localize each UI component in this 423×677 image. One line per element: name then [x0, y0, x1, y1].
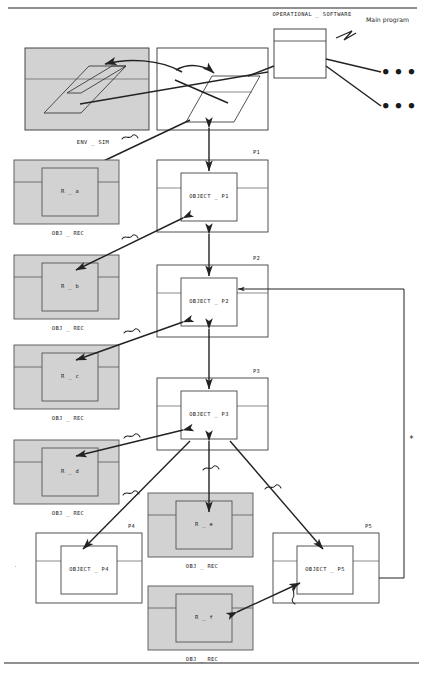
stray-dot-artifact: . [14, 563, 17, 568]
record-box-label-d: R _ d [61, 469, 79, 474]
record-box-label-c: R _ c [61, 374, 79, 379]
process-label-p2: P2 [253, 256, 260, 261]
obj-rec-caption-d: OBJ _ REC [52, 511, 84, 516]
record-box-label-e: R _ e [195, 522, 213, 527]
object-box-label-p2: OBJECT _ P2 [189, 299, 229, 304]
rb-to-p1-arrow [76, 218, 183, 270]
ellipsis-dots-row-2: ● ● ● [383, 101, 415, 110]
process-label-p4: P4 [128, 524, 135, 529]
record-box-label-b: R _ b [61, 284, 79, 289]
process-label-p3: P3 [253, 369, 260, 374]
object-box-label-p4: OBJECT _ P4 [69, 567, 109, 572]
operational-software-label: OPERATIONAL _ SOFTWARE [272, 12, 351, 17]
record-box-label-a: R _ a [61, 189, 79, 194]
top-middle-panel [157, 48, 268, 130]
object-box-label-p3: OBJECT _ P3 [189, 412, 229, 417]
diagram-canvas: OPERATIONAL _ SOFTWARE Main program ENV … [0, 0, 423, 677]
rc-to-p2-arrow [76, 322, 183, 360]
object-box-label-p5: OBJECT _ P5 [305, 567, 345, 572]
operational-software-box [274, 29, 326, 78]
object-box-label-p1: OBJECT _ P1 [189, 194, 229, 199]
process-label-p1: P1 [253, 150, 260, 155]
env-sim-label: ENV _ SIM [77, 140, 109, 145]
obj-rec-caption-a: OBJ _ REC [52, 231, 84, 236]
operational-software-rays [326, 59, 381, 106]
feedback-asterisk-marker: * [409, 436, 414, 444]
main-program-connector [336, 31, 356, 40]
obj-rec-caption-b: OBJ _ REC [52, 326, 84, 331]
obj-rec-caption-c: OBJ _ REC [52, 416, 84, 421]
ellipsis-dots-row-1: ● ● ● [383, 67, 415, 76]
diagram-vector-layer [0, 0, 423, 677]
obj-rec-caption-e: OBJ _ REC [186, 564, 218, 569]
process-label-p5: P5 [365, 524, 372, 529]
obj-rec-caption-f: OBJ _ REC [186, 657, 218, 662]
main-program-label: Main program [366, 17, 409, 23]
record-box-label-f: R _ f [195, 615, 213, 620]
